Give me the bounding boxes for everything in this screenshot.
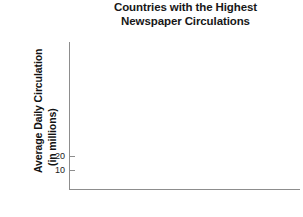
chart-title: Countries with the Highest Newspaper Cir… <box>68 1 303 28</box>
x-axis-line <box>69 189 300 190</box>
y-tick-label-20: 20 <box>25 152 65 161</box>
plot-area <box>70 42 300 189</box>
newspaper-circulation-chart: Countries with the Highest Newspaper Cir… <box>0 0 303 217</box>
chart-title-line-2: Newspaper Circulations <box>68 15 303 29</box>
y-axis-label: Average Daily Circulation (in millions) <box>0 0 56 217</box>
chart-title-line-1: Countries with the Highest <box>68 1 303 15</box>
y-tick-label-10: 10 <box>25 166 65 175</box>
